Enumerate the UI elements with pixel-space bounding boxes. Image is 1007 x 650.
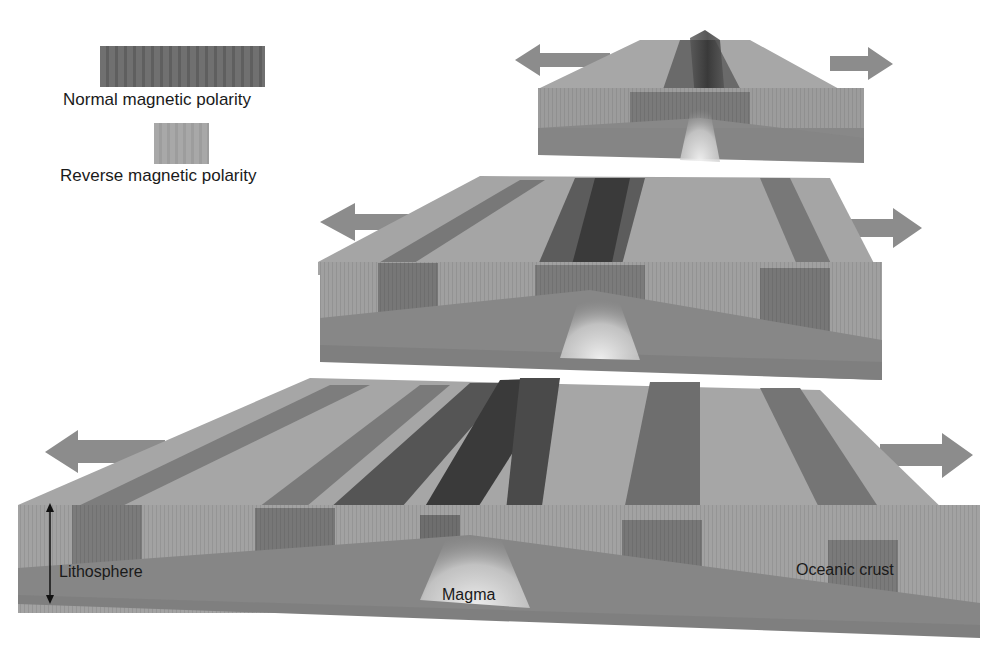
label-magma: Magma xyxy=(442,586,495,604)
stage-3-block xyxy=(18,378,980,638)
seafloor-spreading-diagram xyxy=(0,0,1007,650)
label-lithosphere: Lithosphere xyxy=(59,563,143,581)
arrow-right-icon xyxy=(830,47,893,80)
label-oceanic-crust: Oceanic crust xyxy=(796,561,894,579)
stage-2-block xyxy=(318,176,922,380)
stage-1-block xyxy=(515,30,893,163)
